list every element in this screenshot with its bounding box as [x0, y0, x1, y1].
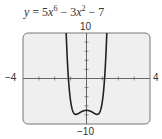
x-max-label: 4	[153, 72, 159, 83]
x-min-label: −4	[5, 72, 16, 83]
y-max-label: 10	[80, 21, 91, 32]
y-min-label: −10	[77, 126, 94, 137]
